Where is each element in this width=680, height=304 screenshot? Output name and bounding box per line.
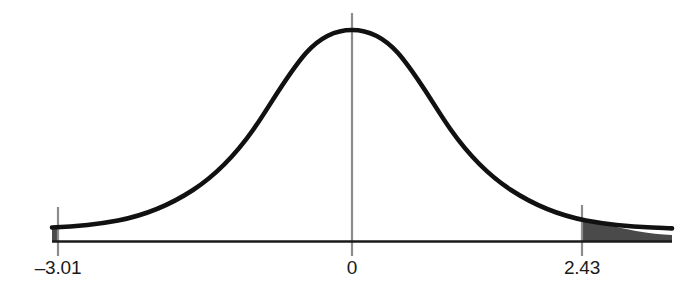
tick-label-center: 0 <box>347 258 357 277</box>
bell-curve-path <box>52 30 672 228</box>
tick-label-left: –3.01 <box>35 258 82 277</box>
tick-label-right: 2.43 <box>564 258 600 277</box>
normal-curve-figure: –3.01 0 2.43 <box>0 0 680 304</box>
